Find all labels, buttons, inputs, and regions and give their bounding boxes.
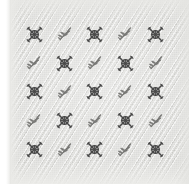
motif-cell-r4-c1: [19, 106, 49, 135]
leaf-sprig-icon: [87, 55, 103, 71]
motif-cell-r5-c2: [49, 135, 79, 164]
leaf-sprig-icon: [87, 113, 103, 129]
circled-x-rosette-icon: [147, 141, 164, 158]
circled-x-rosette-icon: [56, 55, 73, 72]
motif-cell-r2-c3: [80, 49, 110, 78]
motif-cell-r3-c1: [19, 78, 49, 107]
circled-x-rosette-icon: [117, 55, 134, 72]
circled-x-rosette-icon: [26, 141, 43, 158]
circled-x-rosette-icon: [26, 26, 43, 43]
leaf-sprig-icon: [57, 26, 73, 42]
circled-x-rosette-icon: [86, 26, 103, 43]
leaf-sprig-icon: [117, 26, 133, 42]
fabric-edge-fade-top: [11, 0, 189, 20]
motif-cell-r5-c3: [80, 135, 110, 164]
motif-cell-r2-c4: [110, 49, 140, 78]
fabric-edge-fade-right: [175, 0, 189, 184]
motif-cell-r1-c1: [19, 20, 49, 49]
motif-cell-r4-c5: [141, 106, 171, 135]
motif-cell-r2-c5: [141, 49, 171, 78]
motif-cell-r1-c4: [110, 20, 140, 49]
motif-cell-r5-c5: [141, 135, 171, 164]
motif-cell-r4-c2: [49, 106, 79, 135]
motif-cell-r4-c4: [110, 106, 140, 135]
motif-cell-r4-c3: [80, 106, 110, 135]
circled-x-rosette-icon: [56, 112, 73, 129]
motif-cell-r3-c2: [49, 78, 79, 107]
embroidery-motif-grid: [19, 20, 171, 164]
circled-x-rosette-icon: [117, 112, 134, 129]
leaf-sprig-icon: [26, 113, 42, 129]
motif-cell-r3-c3: [80, 78, 110, 107]
motif-cell-r3-c4: [110, 78, 140, 107]
motif-cell-r1-c2: [49, 20, 79, 49]
circled-x-rosette-icon: [86, 141, 103, 158]
circled-x-rosette-icon: [86, 83, 103, 100]
motif-cell-r2-c2: [49, 49, 79, 78]
motif-cell-r1-c3: [80, 20, 110, 49]
circled-x-rosette-icon: [147, 26, 164, 43]
motif-cell-r5-c4: [110, 135, 140, 164]
leaf-sprig-icon: [57, 142, 73, 158]
leaf-sprig-icon: [117, 84, 133, 100]
fabric-selvedge-gradient: [6, 0, 11, 184]
circled-x-rosette-icon: [147, 83, 164, 100]
leaf-sprig-icon: [148, 55, 164, 71]
circled-x-rosette-icon: [26, 83, 43, 100]
fabric-swatch-image: [0, 0, 189, 184]
motif-cell-r2-c1: [19, 49, 49, 78]
motif-cell-r3-c5: [141, 78, 171, 107]
motif-cell-r5-c1: [19, 135, 49, 164]
leaf-sprig-icon: [26, 55, 42, 71]
leaf-sprig-icon: [57, 84, 73, 100]
leaf-sprig-icon: [117, 142, 133, 158]
motif-cell-r1-c5: [141, 20, 171, 49]
leaf-sprig-icon: [148, 113, 164, 129]
